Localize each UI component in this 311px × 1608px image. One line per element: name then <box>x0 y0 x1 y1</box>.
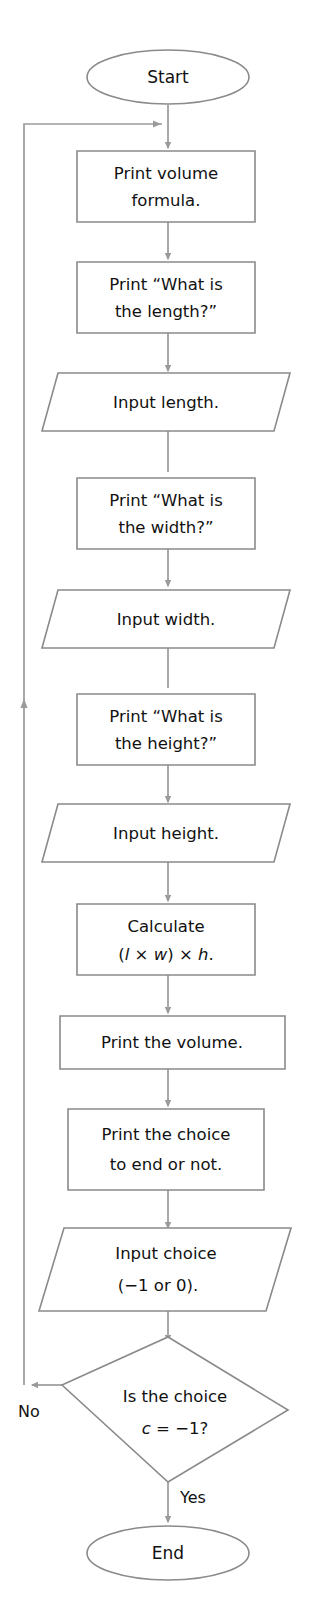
decision-condition: = −1? <box>151 1419 208 1438</box>
connector-loop-upward-arrowhead <box>20 699 27 708</box>
node-print-volume[interactable]: Print the volume. <box>60 1016 285 1069</box>
node-input-width[interactable]: Input width. <box>42 590 290 648</box>
decision-line2: c = −1? <box>142 1419 208 1438</box>
node-input-height[interactable]: Input height. <box>42 804 290 862</box>
calculate-box <box>77 904 255 975</box>
print-length-prompt-line1: Print “What is <box>109 275 223 294</box>
node-end[interactable]: End <box>87 1526 249 1580</box>
branch-label-yes: Yes <box>179 1488 206 1507</box>
print-formula-line1: Print volume <box>114 164 218 183</box>
calculate-line1: Calculate <box>127 917 204 936</box>
print-height-prompt-box <box>77 694 255 765</box>
node-print-width-prompt[interactable]: Print “What is the width?” <box>77 478 255 549</box>
print-width-prompt-line2: the width?” <box>118 518 213 537</box>
decision-variable: c <box>142 1419 151 1438</box>
node-calculate[interactable]: Calculate (l × w) × h. <box>77 904 255 975</box>
print-height-prompt-line2: the height?” <box>115 734 217 753</box>
input-length-label: Input length. <box>113 393 219 412</box>
branch-label-no: No <box>18 1402 40 1421</box>
print-choice-box <box>68 1109 264 1190</box>
print-formula-line2: formula. <box>132 191 201 210</box>
calculate-formula-period: . <box>208 945 213 964</box>
print-height-prompt-line1: Print “What is <box>109 707 223 726</box>
node-print-height-prompt[interactable]: Print “What is the height?” <box>77 694 255 765</box>
node-print-formula[interactable]: Print volume formula. <box>77 151 255 222</box>
input-width-label: Input width. <box>117 610 216 629</box>
flowchart-canvas: Start Print volume formula. Print “What … <box>0 0 311 1608</box>
node-print-choice[interactable]: Print the choice to end or not. <box>68 1109 264 1190</box>
node-input-length[interactable]: Input length. <box>42 373 290 431</box>
print-choice-line2: to end or not. <box>110 1155 223 1174</box>
node-start[interactable]: Start <box>87 50 249 104</box>
flowchart-svg: Start Print volume formula. Print “What … <box>0 0 311 1608</box>
calculate-formula-h: h <box>198 945 208 964</box>
print-volume-label: Print the volume. <box>101 1033 243 1052</box>
node-input-choice[interactable]: Input choice (−1 or 0). <box>39 1228 291 1311</box>
calculate-formula-w: w <box>154 945 168 964</box>
calculate-formula-times1: × <box>129 945 153 964</box>
calculate-formula-times2: × <box>179 945 198 964</box>
print-length-prompt-box <box>77 262 255 333</box>
start-label: Start <box>147 67 189 87</box>
connector-loop-return-arrowhead <box>153 121 161 128</box>
input-height-label: Input height. <box>113 824 219 843</box>
calculate-formula: (l × w) × h. <box>118 945 213 964</box>
print-formula-box <box>77 151 255 222</box>
print-width-prompt-line1: Print “What is <box>109 491 223 510</box>
input-choice-line2: (−1 or 0). <box>118 1276 198 1295</box>
calculate-formula-close: ) <box>167 945 179 964</box>
print-length-prompt-line2: the length?” <box>115 302 217 321</box>
input-choice-line1: Input choice <box>115 1244 216 1263</box>
print-width-prompt-box <box>77 478 255 549</box>
decision-line1: Is the choice <box>123 1387 227 1406</box>
end-label: End <box>152 1543 184 1563</box>
node-decision[interactable]: Is the choice c = −1? <box>62 1337 288 1482</box>
decision-diamond <box>62 1337 288 1482</box>
print-choice-line1: Print the choice <box>102 1125 231 1144</box>
node-print-length-prompt[interactable]: Print “What is the length?” <box>77 262 255 333</box>
input-choice-parallelogram <box>39 1228 291 1311</box>
